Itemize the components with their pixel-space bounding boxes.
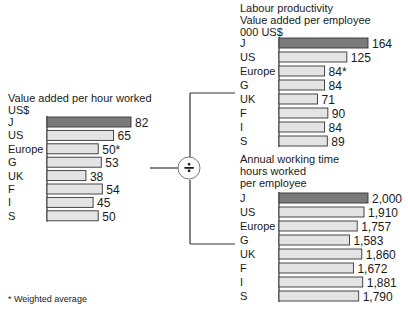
- bottom-right-category-label: US: [240, 206, 255, 218]
- left-value-label: 50*: [102, 143, 120, 157]
- left-category-label: US: [8, 129, 23, 141]
- top-right-category-label: G: [240, 79, 249, 91]
- left-bar-uk: [47, 171, 86, 181]
- left-category-label: S: [8, 210, 15, 222]
- top-right-category-label: Europe: [240, 65, 275, 77]
- top-right-value-label: 125: [351, 51, 371, 65]
- bottom-right-bar-i: [279, 277, 363, 287]
- top-right-value-label: 164: [372, 37, 392, 51]
- top-right-bar-i: [279, 122, 325, 132]
- bottom-right-value-label: 1,910: [368, 206, 398, 220]
- bottom-right-value-label: 1,672: [357, 262, 387, 276]
- left-value-label: 38: [90, 170, 104, 184]
- left-category-label: Europe: [8, 143, 43, 155]
- top-right-category-label: UK: [240, 93, 256, 105]
- top-right-chart-unit: 000 US$: [240, 26, 283, 38]
- left-value-label: 54: [106, 183, 120, 197]
- left-bar-f: [47, 184, 102, 194]
- bottom-right-value-label: 1,790: [363, 290, 393, 304]
- left-category-label: UK: [8, 170, 24, 182]
- left-category-label: I: [8, 196, 11, 208]
- left-value-label: 65: [118, 129, 132, 143]
- bottom-right-value-label: 1,860: [366, 248, 396, 262]
- bottom-right-category-label: F: [240, 262, 247, 274]
- top-right-value-label: 71: [322, 93, 336, 107]
- top-right-bar-g: [279, 80, 325, 90]
- bottom-right-bar-s: [279, 291, 359, 301]
- left-category-label: F: [8, 183, 15, 195]
- left-bar-us: [47, 130, 114, 140]
- left-bar-j: [47, 117, 131, 127]
- top-right-value-label: 84: [329, 79, 343, 93]
- bottom-right-bar-uk: [279, 249, 362, 259]
- top-right-bar-s: [279, 136, 327, 146]
- bottom-right-bar-us: [279, 207, 364, 217]
- left-value-label: 82: [135, 116, 149, 130]
- left-category-label: G: [8, 156, 17, 168]
- bottom-right-bar-f: [279, 263, 353, 273]
- top-right-value-label: 84: [329, 121, 343, 135]
- left-bar-s: [47, 211, 98, 221]
- bottom-right-bar-g: [279, 235, 349, 245]
- left-value-label: 50: [102, 210, 116, 224]
- left-chart-title: Value added per hour worked: [8, 92, 152, 104]
- bottom-right-category-label: J: [240, 192, 246, 204]
- bottom-right-category-label: G: [240, 234, 249, 246]
- bottom-right-chart-title: Annual working time: [240, 153, 339, 165]
- bottom-right-chart-subtitle: hours worked: [240, 165, 306, 177]
- top-right-value-label: 90: [332, 107, 346, 121]
- left-value-label: 45: [97, 196, 111, 210]
- bottom-right-category-label: UK: [240, 248, 256, 260]
- bottom-right-value-label: 1,757: [361, 220, 391, 234]
- left-bar-europe: [47, 144, 98, 154]
- top-right-category-label: US: [240, 51, 255, 63]
- footnote: * Weighted average: [8, 294, 87, 304]
- top-right-category-label: J: [240, 37, 246, 49]
- top-right-chart-subtitle: Value added per employee: [240, 14, 371, 26]
- bottom-right-value-label: 1,583: [353, 234, 383, 248]
- bottom-right-value-label: 2,000: [372, 192, 402, 206]
- bottom-right-value-label: 1,881: [367, 276, 397, 290]
- top-right-bar-f: [279, 108, 328, 118]
- left-chart-unit: US$: [8, 104, 29, 116]
- top-right-category-label: S: [240, 135, 247, 147]
- top-right-bar-us: [279, 52, 347, 62]
- top-right-value-label: 89: [331, 135, 345, 149]
- bottom-right-category-label: I: [240, 276, 243, 288]
- bottom-right-bar-j: [279, 193, 368, 203]
- left-bar-i: [47, 197, 93, 207]
- top-right-category-label: I: [240, 121, 243, 133]
- left-category-label: J: [8, 116, 14, 128]
- top-right-category-label: F: [240, 107, 247, 119]
- divide-icon: ÷: [183, 159, 196, 177]
- bottom-right-category-label: S: [240, 290, 247, 302]
- bottom-right-category-label: Europe: [240, 220, 275, 232]
- bottom-right-bar-europe: [279, 221, 357, 231]
- top-right-chart-title: Labour productivity: [240, 2, 333, 14]
- left-value-label: 53: [105, 156, 119, 170]
- productivity-figure: Value added per hour worked US$ Labour p…: [0, 0, 408, 312]
- top-right-bar-j: [279, 38, 368, 48]
- left-bar-g: [47, 157, 101, 167]
- top-right-bar-europe: [279, 66, 325, 76]
- top-right-bar-uk: [279, 94, 318, 104]
- bottom-right-chart-unit: per employee: [240, 177, 307, 189]
- top-right-value-label: 84*: [329, 65, 347, 79]
